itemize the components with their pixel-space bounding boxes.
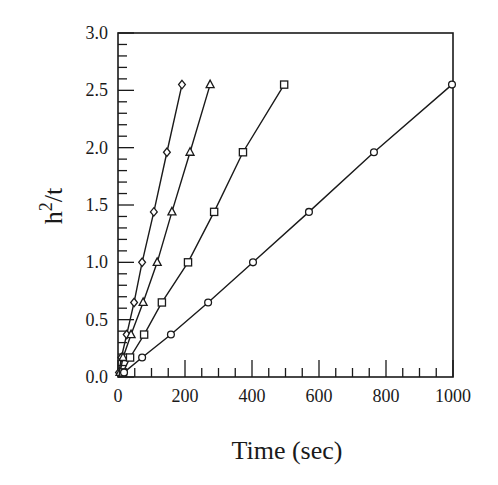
diamond-marker xyxy=(131,298,138,306)
x-tick-label: 1000 xyxy=(435,386,471,406)
triangle-marker xyxy=(153,258,161,266)
circle-marker xyxy=(371,149,378,156)
circle-marker xyxy=(205,299,212,306)
circle-marker xyxy=(250,259,257,266)
diamond-marker xyxy=(150,208,157,216)
series-line xyxy=(123,85,284,373)
axis-labels: 0.00.51.01.52.02.53.002004006008001000 xyxy=(86,23,472,406)
square-marker xyxy=(211,208,218,215)
series-triangle xyxy=(116,80,214,375)
series-line xyxy=(124,85,452,373)
x-axis-title: Time (sec) xyxy=(232,436,343,465)
triangle-marker xyxy=(206,80,214,88)
y-axis-title-base: h xyxy=(39,211,68,224)
triangle-marker xyxy=(139,298,147,306)
square-marker xyxy=(239,149,246,156)
y-tick-label: 1.5 xyxy=(86,195,109,215)
square-marker xyxy=(281,81,288,88)
circle-marker xyxy=(139,354,146,361)
y-axis-title-sup: 2 xyxy=(36,202,56,211)
series-line xyxy=(119,85,182,373)
y-axis-title: h2/t xyxy=(36,187,68,224)
chart: 0.00.51.01.52.02.53.002004006008001000 T… xyxy=(0,0,498,485)
x-tick-label: 0 xyxy=(114,386,123,406)
circle-marker xyxy=(449,81,456,88)
diamond-marker xyxy=(164,148,171,156)
y-tick-label: 2.5 xyxy=(86,80,109,100)
x-tick-label: 200 xyxy=(172,386,199,406)
circle-marker xyxy=(306,208,313,215)
diamond-marker xyxy=(139,258,146,266)
series-circle xyxy=(121,81,456,376)
x-tick-label: 400 xyxy=(239,386,266,406)
series-line xyxy=(120,85,210,373)
y-tick-label: 2.0 xyxy=(86,138,109,158)
square-marker xyxy=(126,354,133,361)
x-tick-label: 600 xyxy=(306,386,333,406)
diamond-marker xyxy=(179,80,186,88)
series-square xyxy=(119,81,287,376)
circle-marker xyxy=(121,369,128,376)
y-tick-label: 3.0 xyxy=(86,23,109,43)
y-axis-title-rest: /t xyxy=(39,187,68,202)
y-tick-label: 0.5 xyxy=(86,310,109,330)
triangle-marker xyxy=(168,207,176,215)
data-series xyxy=(116,80,456,377)
circle-marker xyxy=(168,331,175,338)
square-marker xyxy=(184,259,191,266)
square-marker xyxy=(141,331,148,338)
y-tick-label: 0.0 xyxy=(86,367,109,387)
y-tick-label: 1.0 xyxy=(86,252,109,272)
square-marker xyxy=(158,299,165,306)
x-tick-label: 800 xyxy=(373,386,400,406)
triangle-marker xyxy=(186,148,194,156)
